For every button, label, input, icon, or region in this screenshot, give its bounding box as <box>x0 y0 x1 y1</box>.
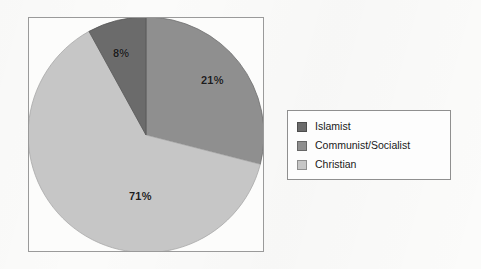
legend: Islamist Communist/Socialist Christian <box>287 110 451 180</box>
pie-label-christian: 71% <box>129 190 152 202</box>
legend-swatch-icon-christian <box>297 160 307 170</box>
legend-item-communist-socialist[interactable]: Communist/Socialist <box>297 136 450 155</box>
pie-svg <box>28 17 264 252</box>
pie-label-communist-socialist: 21% <box>201 74 224 86</box>
legend-label-islamist: Islamist <box>315 121 351 132</box>
legend-swatch-icon-communist-socialist <box>297 141 307 151</box>
legend-label-communist-socialist: Communist/Socialist <box>315 140 410 151</box>
legend-label-christian: Christian <box>315 159 356 170</box>
chart-page: 8% 21% 71% Islamist Communist/Socialist … <box>0 0 481 269</box>
pie-label-islamist: 8% <box>113 47 129 59</box>
legend-item-islamist[interactable]: Islamist <box>297 117 450 136</box>
legend-swatch-icon-islamist <box>297 122 307 132</box>
plot-area: 8% 21% 71% <box>28 17 264 252</box>
pie-chart: 8% 21% 71% <box>29 18 264 252</box>
legend-item-christian[interactable]: Christian <box>297 155 450 174</box>
